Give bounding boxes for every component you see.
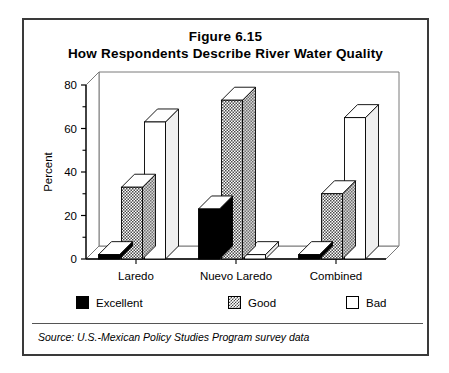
legend-label-good: Good <box>248 297 276 309</box>
bar-bad-nuevo-laredo <box>245 255 266 259</box>
x-axis-category-label: Nuevo Laredo <box>200 270 272 282</box>
y-axis-tick-label: 20 <box>64 210 77 222</box>
y-axis-tick-label: 80 <box>64 79 77 91</box>
legend-item-good: Good <box>228 296 276 309</box>
legend-label-bad: Bad <box>366 297 386 309</box>
chart-legend: Excellent Good Bad <box>56 296 404 318</box>
x-axis-category-label: Combined <box>310 270 362 282</box>
figure-frame: Figure 6.15 How Respondents Describe Riv… <box>22 18 429 356</box>
bar-excellent-laredo <box>99 255 120 259</box>
legend-item-excellent: Excellent <box>76 296 143 309</box>
bar-excellent-combined <box>299 255 320 259</box>
y-axis-tick-label: 60 <box>64 123 77 135</box>
y-axis-tick-label: 0 <box>71 253 77 265</box>
gray-hatched-square-icon <box>228 296 241 309</box>
source-note: Source: U.S.-Mexican Policy Studies Prog… <box>38 331 309 343</box>
y-axis-title: Percent <box>42 151 54 191</box>
bar-excellent-nuevo-laredo <box>199 209 220 259</box>
x-axis-category-label: Laredo <box>118 270 154 282</box>
legend-item-bad: Bad <box>346 296 386 309</box>
white-empty-square-icon <box>346 296 359 309</box>
y-axis-tick-label: 40 <box>64 166 77 178</box>
divider <box>32 323 423 324</box>
black-filled-square-icon <box>76 296 89 309</box>
legend-label-excellent: Excellent <box>96 297 143 309</box>
